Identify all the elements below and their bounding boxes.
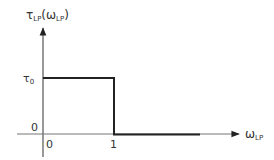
- omega-lp-subscript: LP: [255, 134, 263, 142]
- paren-close: ): [64, 8, 69, 22]
- y-tick-tau0: τ0: [23, 73, 34, 86]
- y-tick-zero: 0: [31, 122, 38, 133]
- y-axis-label: τLP(ωLP): [26, 9, 69, 23]
- x-tick-one: 1: [110, 139, 117, 150]
- x-tick-zero: 0: [46, 139, 53, 150]
- tau0-subscript: 0: [30, 78, 34, 86]
- response-curve: [43, 78, 200, 135]
- x-axis-label: ωLP: [245, 128, 263, 142]
- omega-symbol: ω: [46, 8, 56, 22]
- omega-lp-symbol: ω: [245, 127, 255, 141]
- tau0-symbol: τ: [23, 72, 30, 85]
- diagram-canvas: [0, 0, 274, 160]
